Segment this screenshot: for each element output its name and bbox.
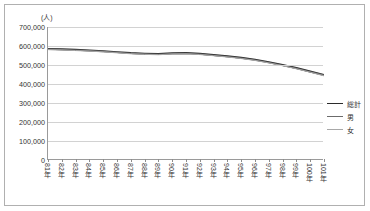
x-axis-tick (310, 159, 311, 162)
plot-area (47, 27, 323, 160)
gridline (48, 84, 323, 85)
x-axis-tick-label: 81年 (42, 163, 52, 178)
x-axis-tick-label: 82年 (56, 163, 66, 178)
y-axis-unit-label: (人) (41, 12, 53, 22)
x-axis-tick-label: 99年 (290, 163, 300, 178)
x-axis-tick-label: 92年 (194, 163, 204, 178)
x-axis-tick (48, 159, 49, 162)
legend-swatch (327, 129, 343, 130)
legend-item[interactable]: 総計 (327, 97, 370, 110)
y-axis-labels: 0100,000200,000300,000400,000500,000600,… (5, 27, 45, 160)
legend-label: 男 (347, 112, 354, 122)
x-axis-tick-label: 89年 (152, 163, 162, 178)
legend-swatch (327, 103, 343, 104)
x-axis-tick (227, 159, 228, 162)
y-axis-tick-label: 400,000 (19, 80, 45, 89)
x-axis-tick-label: 90年 (166, 163, 176, 178)
y-axis-tick-label: 300,000 (19, 99, 45, 108)
series-line-女 (48, 50, 324, 76)
legend-item[interactable]: 女 (327, 123, 370, 136)
x-axis-tick (200, 159, 201, 162)
x-axis-tick-label: 84年 (83, 163, 93, 178)
x-axis-tick (269, 159, 270, 162)
gridline (48, 46, 323, 47)
x-axis-tick-label: 88年 (139, 163, 149, 178)
x-axis-tick (145, 159, 146, 162)
x-axis-tick (255, 159, 256, 162)
gridline (48, 27, 323, 28)
legend-label: 総計 (347, 99, 361, 109)
x-axis-tick (62, 159, 63, 162)
x-axis-tick-label: 97年 (263, 163, 273, 178)
legend-swatch (327, 116, 343, 117)
x-axis-tick-label: 91年 (180, 163, 190, 178)
x-axis-tick (103, 159, 104, 162)
x-axis-tick-label: 83年 (70, 163, 80, 178)
y-axis-tick-label: 200,000 (19, 118, 45, 127)
x-axis-tick (296, 159, 297, 162)
gridline (48, 65, 323, 66)
x-axis-tick-label: 98年 (277, 163, 287, 178)
x-axis-tick-label: 85年 (97, 163, 107, 178)
x-axis-tick (324, 159, 325, 162)
x-axis-tick (117, 159, 118, 162)
series-line-男 (48, 49, 324, 75)
x-axis-tick (172, 159, 173, 162)
legend: 総計男女 (327, 97, 370, 136)
x-axis-tick-label: 100年 (304, 163, 314, 182)
x-axis-tick (186, 159, 187, 162)
y-axis-tick-label: 700,000 (19, 23, 45, 32)
legend-label: 女 (347, 125, 354, 135)
y-axis-tick-label: 500,000 (19, 61, 45, 70)
x-axis-tick-label: 87年 (125, 163, 135, 178)
x-axis-tick-label: 96年 (249, 163, 259, 178)
legend-item[interactable]: 男 (327, 110, 370, 123)
x-axis-tick (214, 159, 215, 162)
x-axis-tick (131, 159, 132, 162)
gridline (48, 122, 323, 123)
x-axis-tick (76, 159, 77, 162)
y-axis-tick-label: 600,000 (19, 42, 45, 51)
x-axis-tick (158, 159, 159, 162)
chart-frame: (人) 0100,000200,000300,000400,000500,000… (4, 4, 365, 206)
x-axis-tick-label: 93年 (208, 163, 218, 178)
y-axis-tick-label: 100,000 (19, 137, 45, 146)
x-axis-tick-label: 101年 (318, 163, 328, 182)
x-axis-labels: 81年82年83年84年85年86年87年88年89年90年91年92年93年9… (47, 163, 323, 208)
x-axis-tick (241, 159, 242, 162)
x-axis-tick-label: 95年 (235, 163, 245, 178)
gridline (48, 103, 323, 104)
x-axis-tick (283, 159, 284, 162)
x-axis-tick-label: 86年 (111, 163, 121, 178)
gridline (48, 141, 323, 142)
x-axis-tick-label: 94年 (221, 163, 231, 178)
series-line-総計 (48, 49, 324, 75)
x-axis-tick (89, 159, 90, 162)
